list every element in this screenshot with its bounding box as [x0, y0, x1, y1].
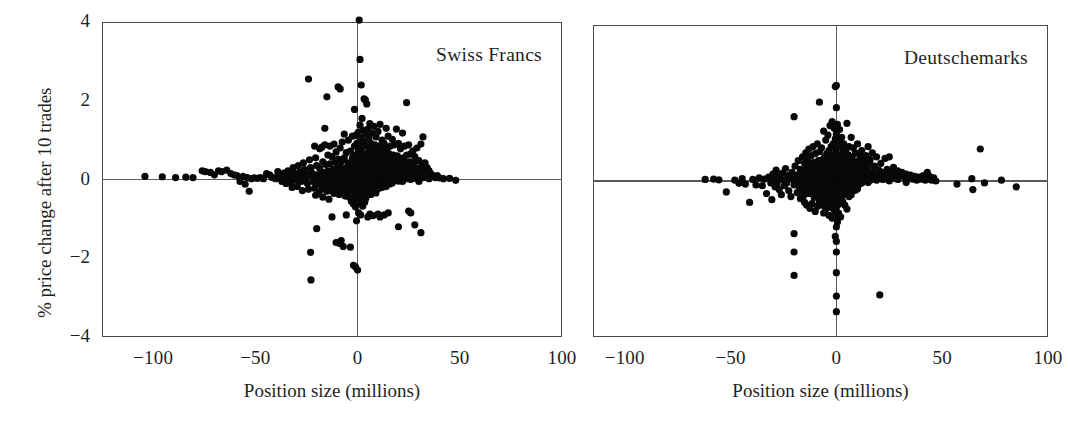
x-axis-title: Position size (millions): [671, 380, 971, 402]
x-tick-label: −100: [585, 347, 665, 369]
series-label-deutschemarks: Deutschemarks: [904, 47, 1028, 69]
x-tick-label: −50: [691, 347, 771, 369]
x-tick-label: 100: [1008, 347, 1068, 369]
x-tick-label: 50: [902, 347, 982, 369]
scatter-figure: % price change after 10 trades 420−2−4 S…: [0, 0, 1068, 438]
x-tick-label: 0: [796, 347, 876, 369]
